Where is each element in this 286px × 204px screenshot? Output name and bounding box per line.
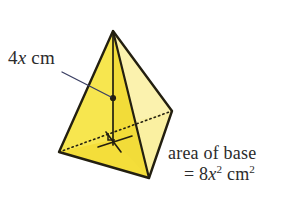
pyramid-figure: 4x cm area of base = 8x2 cm2 bbox=[0, 0, 286, 204]
base-area-equals-coefficient: = 8 bbox=[184, 164, 208, 184]
base-area-label: area of base = 8x2 cm2 bbox=[168, 143, 256, 184]
height-label: 4x cm bbox=[8, 47, 55, 69]
height-label-variable: x bbox=[18, 47, 27, 68]
base-area-unit: cm bbox=[227, 164, 249, 184]
base-area-label-line2: = 8x2 cm2 bbox=[168, 164, 256, 185]
height-label-unit: cm bbox=[31, 47, 55, 68]
base-area-variable-exponent: 2 bbox=[216, 163, 222, 175]
base-area-unit-exponent: 2 bbox=[249, 163, 255, 175]
height-label-coefficient: 4 bbox=[8, 47, 18, 68]
height-point-dot bbox=[110, 95, 116, 101]
base-area-label-line1: area of base bbox=[168, 143, 256, 163]
